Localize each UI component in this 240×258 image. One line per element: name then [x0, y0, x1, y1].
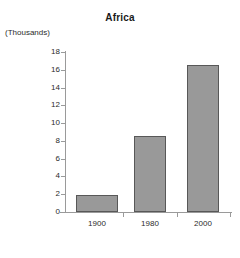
bar: [76, 195, 118, 212]
y-axis-tick-label: 16: [34, 66, 60, 74]
x-axis-tick: [230, 213, 231, 217]
bar-chart: Africa (Thousands) 024681012141618 19001…: [0, 0, 240, 258]
bar: [134, 136, 166, 212]
x-axis-tick-label: 2000: [194, 219, 212, 228]
y-axis-tick-label: 0: [34, 208, 60, 216]
y-axis-tick-label: 6: [34, 155, 60, 163]
x-axis-tick: [177, 213, 178, 217]
x-axis-tick-label: 1900: [88, 219, 106, 228]
y-axis-tick-label: 14: [34, 84, 60, 92]
y-axis-tick: [61, 212, 66, 213]
bar-series: [66, 52, 232, 212]
y-axis-tick-label: 2: [34, 190, 60, 198]
y-axis-tick-label: 4: [34, 172, 60, 180]
x-axis-line: [60, 212, 232, 213]
x-axis-tick: [123, 213, 124, 217]
bar: [187, 65, 219, 212]
y-axis-tick-label: 8: [34, 137, 60, 145]
y-axis-tick-label: 18: [34, 48, 60, 56]
y-axis-tick-labels: 024681012141618: [30, 0, 60, 258]
y-axis-tick-label: 12: [34, 101, 60, 109]
x-axis-tick-label: 1980: [141, 219, 159, 228]
y-axis-tick-label: 10: [34, 119, 60, 127]
